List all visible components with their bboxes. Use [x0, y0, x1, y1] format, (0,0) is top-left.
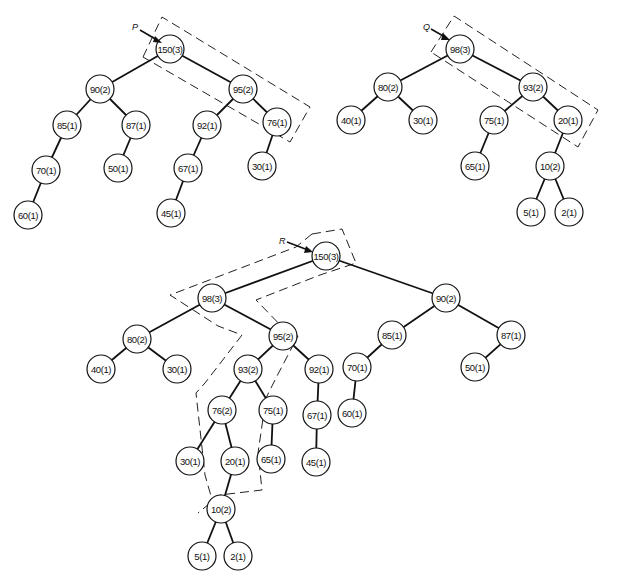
- tree-node: 2(1): [224, 542, 252, 570]
- node-label: 80(2): [127, 334, 147, 345]
- tree-node: 60(1): [338, 399, 366, 427]
- tree-node: 20(1): [221, 447, 249, 475]
- tree-node: 75(1): [259, 396, 287, 424]
- tree-node: 70(1): [32, 156, 60, 184]
- node-label: 70(1): [36, 165, 56, 176]
- tree-node: 40(1): [337, 106, 365, 134]
- tree-node: 65(1): [257, 445, 285, 473]
- node-label: 65(1): [465, 161, 485, 172]
- tree-node: 40(1): [87, 355, 115, 383]
- node-label: 40(1): [341, 115, 361, 126]
- tree-node: 20(1): [554, 106, 582, 134]
- node-label: 10(2): [540, 161, 560, 172]
- tree-node: 80(2): [374, 73, 402, 101]
- tree-node: 30(1): [176, 447, 204, 475]
- tree-node: 92(1): [193, 111, 221, 139]
- node-label: 90(2): [436, 293, 456, 304]
- node-label: 30(1): [252, 161, 272, 172]
- node-label: 45(1): [161, 208, 181, 219]
- node-label: 5(1): [194, 551, 210, 562]
- node-label: 150(3): [157, 44, 182, 55]
- tree-node: 85(1): [53, 111, 81, 139]
- tree-node: 2(1): [555, 198, 583, 226]
- node-label: 93(2): [523, 82, 543, 93]
- node-label: 70(1): [347, 362, 367, 373]
- tree-nodes: 150(3)90(2)95(2)85(1)87(1)92(1)76(1)70(1…: [14, 35, 583, 570]
- tree-node: 90(2): [86, 75, 114, 103]
- tree-node: 87(1): [497, 321, 525, 349]
- tree-node: 45(1): [302, 448, 330, 476]
- tree-node: 85(1): [378, 321, 406, 349]
- node-label: 95(2): [233, 84, 253, 95]
- tree-node: 92(1): [305, 355, 333, 383]
- node-label: 87(1): [501, 330, 521, 341]
- node-label: 67(1): [307, 410, 327, 421]
- tree-node: 98(3): [446, 35, 474, 63]
- node-label: 80(2): [378, 82, 398, 93]
- node-label: 40(1): [91, 364, 111, 375]
- tree-node: 95(2): [269, 322, 297, 350]
- node-label: 98(3): [450, 44, 470, 55]
- tree-node: 30(1): [248, 152, 276, 180]
- tree-node: 70(1): [343, 353, 371, 381]
- tree-node: 76(2): [208, 396, 236, 424]
- pointer-p: P: [132, 22, 162, 43]
- leftist-tree-merge-diagram: 150(3)90(2)95(2)85(1)87(1)92(1)76(1)70(1…: [0, 0, 618, 583]
- node-label: 30(1): [413, 115, 433, 126]
- node-label: 90(2): [90, 84, 110, 95]
- tree-node: 65(1): [461, 152, 489, 180]
- node-label: 65(1): [261, 454, 281, 465]
- tree-node: 30(1): [409, 106, 437, 134]
- node-label: 60(1): [18, 210, 38, 221]
- node-label: 5(1): [523, 207, 539, 218]
- pointer-label-p: P: [132, 22, 138, 32]
- tree-node: 45(1): [157, 199, 185, 227]
- node-label: 50(1): [465, 362, 485, 373]
- tree-edge: [326, 256, 446, 298]
- tree-node: 10(2): [536, 152, 564, 180]
- node-label: 92(1): [197, 120, 217, 131]
- tree-node: 67(1): [303, 401, 331, 429]
- pointer-r: R: [279, 236, 313, 253]
- pointer-label-r: R: [279, 236, 286, 246]
- node-label: 60(1): [342, 408, 362, 419]
- tree-node: 95(2): [229, 75, 257, 103]
- node-label: 92(1): [309, 364, 329, 375]
- tree-node: 50(1): [461, 353, 489, 381]
- node-label: 87(1): [126, 120, 146, 131]
- pointer-q: Q: [423, 22, 450, 40]
- tree-node: 98(3): [198, 284, 226, 312]
- node-label: 150(3): [313, 251, 338, 262]
- tree-node: 87(1): [122, 111, 150, 139]
- node-label: 2(1): [561, 207, 577, 218]
- tree-node: 60(1): [14, 201, 42, 229]
- node-label: 67(1): [178, 163, 198, 174]
- node-label: 85(1): [382, 330, 402, 341]
- node-label: 2(1): [230, 551, 246, 562]
- tree-node: 90(2): [432, 284, 460, 312]
- node-label: 30(1): [167, 364, 187, 375]
- tree-node: 93(2): [519, 73, 547, 101]
- tree-node: 150(3): [312, 242, 340, 270]
- tree-node: 5(1): [517, 198, 545, 226]
- tree-node: 50(1): [104, 154, 132, 182]
- node-label: 85(1): [57, 120, 77, 131]
- tree-node: 75(1): [480, 106, 508, 134]
- tree-node: 150(3): [156, 35, 184, 63]
- node-label: 20(1): [558, 115, 578, 126]
- pointer-label-q: Q: [423, 22, 430, 32]
- node-label: 75(1): [484, 115, 504, 126]
- node-label: 98(3): [202, 293, 222, 304]
- tree-node: 10(2): [207, 495, 235, 523]
- node-label: 50(1): [108, 163, 128, 174]
- node-label: 93(2): [238, 364, 258, 375]
- node-label: 76(1): [267, 117, 287, 128]
- tree-node: 76(1): [263, 108, 291, 136]
- node-label: 10(2): [211, 504, 231, 515]
- node-label: 20(1): [225, 456, 245, 467]
- node-label: 76(2): [212, 405, 232, 416]
- node-label: 30(1): [180, 456, 200, 467]
- tree-node: 5(1): [188, 542, 216, 570]
- node-label: 45(1): [306, 457, 326, 468]
- tree-edge: [212, 256, 326, 298]
